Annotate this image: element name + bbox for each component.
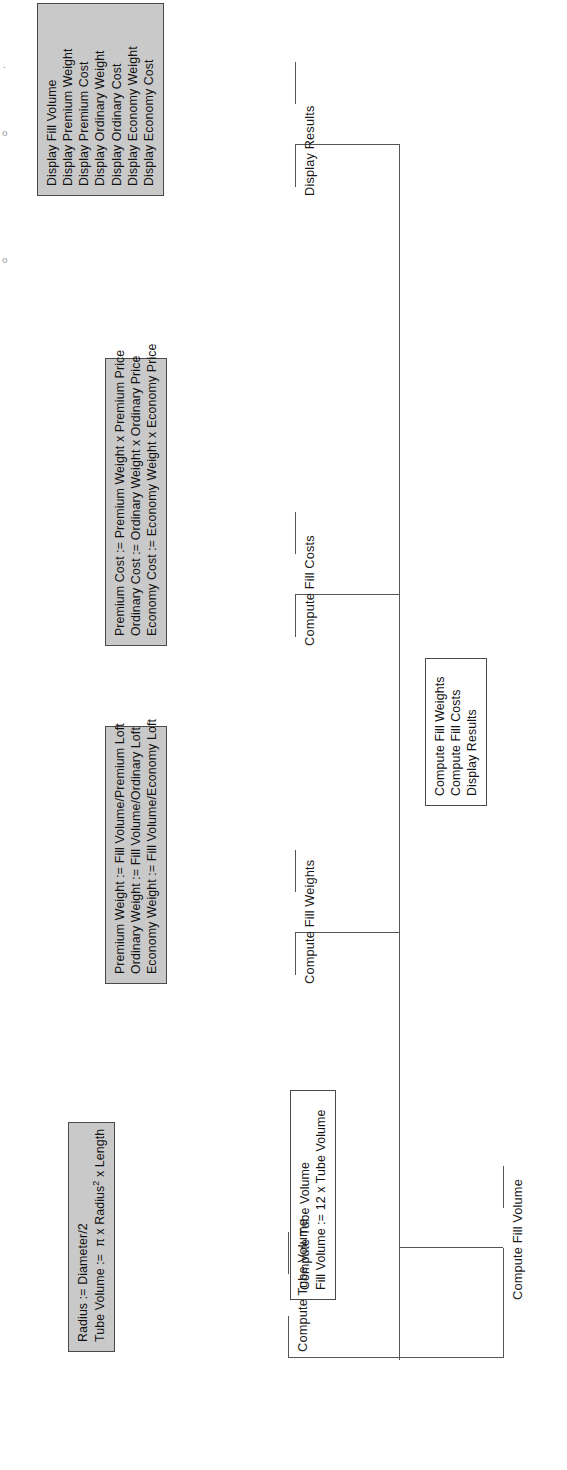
stub-fill-weights-box [295, 850, 296, 892]
stub-tube-volume-box [288, 1232, 289, 1274]
caption-compute-tube-volume: Compute Tube Volume [295, 1219, 310, 1352]
node-compute-tube-volume[interactable]: Radius := Diameter/2 Tube Volume := π x … [68, 1122, 115, 1352]
node-display-results[interactable]: Display Fill Volume Display Premium Weig… [37, 3, 164, 196]
node-line: Display Economy Weight [125, 12, 141, 186]
subtree-vert-tube-volume [288, 1357, 504, 1358]
node-line: Display Fill Volume [44, 12, 60, 186]
root-line-3: Display Results [464, 667, 480, 796]
diagram-canvas: Compute Fill Weights Compute Fill Costs … [0, 0, 567, 1470]
node-line-highlighted: Fill Volume := 12 x Tube Volume [314, 1110, 328, 1290]
node-line: Ordinary Weight := Fill Volume/Ordinary … [128, 735, 144, 974]
node-line: Tube Volume := π x Radius2 x Length [91, 1131, 108, 1342]
node-line: Display Premium Cost [76, 12, 92, 186]
node-line: Ordinary Cost := Ordinary Weight x Ordin… [128, 367, 144, 636]
root-line-1: Compute Fill Weights [432, 667, 448, 796]
subtree-spine-tube-volume [503, 1288, 504, 1358]
stub-display-results-left [295, 145, 296, 187]
stub-display-results-box [295, 62, 296, 104]
branch-drop-fill-volume [399, 1247, 503, 1248]
stub-fill-volume-box [503, 1166, 504, 1208]
node-line: Display Premium Weight [60, 12, 76, 186]
root-line-2: Compute Fill Costs [448, 667, 464, 796]
page-mark-3: o [2, 253, 8, 265]
page-mark-1: . [3, 58, 6, 70]
tube-volume-formula: Tube Volume := π x Radius2 x Length [93, 1129, 107, 1342]
node-line: Display Economy Cost [141, 12, 157, 186]
node-line: Display Ordinary Cost [109, 12, 125, 186]
caption-compute-fill-volume: Compute Fill Volume [510, 1179, 525, 1300]
stub-fill-weights-left [295, 933, 296, 975]
caption-display-results: Display Results [302, 106, 317, 196]
root-stub [399, 1320, 400, 1360]
stub-fill-volume-top [503, 1248, 504, 1290]
stub-fill-costs-left [295, 595, 296, 637]
stub-fill-costs-box [295, 512, 296, 554]
node-line: Premium Weight := Fill Volume/Premium Lo… [112, 735, 128, 974]
stub-tube-volume-left [288, 1316, 289, 1358]
node-line: Economy Cost := Economy Weight x Economy… [144, 367, 160, 636]
node-line: Radius := Diameter/2 [75, 1131, 91, 1342]
caption-compute-fill-costs: Compute Fill Costs [302, 535, 317, 646]
node-line: Economy Weight := Fill Volume/Economy Lo… [144, 735, 160, 974]
node-compute-fill-weights[interactable]: Premium Weight := Fill Volume/Premium Lo… [105, 726, 167, 984]
node-line: Premium Cost := Premium Weight x Premium… [112, 367, 128, 636]
node-line: Display Ordinary Weight [92, 12, 108, 186]
caption-compute-fill-weights: Compute Fill Weights [302, 860, 317, 984]
root-node[interactable]: Compute Fill Weights Compute Fill Costs … [425, 658, 487, 806]
page-mark-2: o [2, 126, 8, 138]
node-compute-fill-costs[interactable]: Premium Cost := Premium Weight x Premium… [105, 358, 167, 646]
trunk-spine [399, 145, 400, 1325]
